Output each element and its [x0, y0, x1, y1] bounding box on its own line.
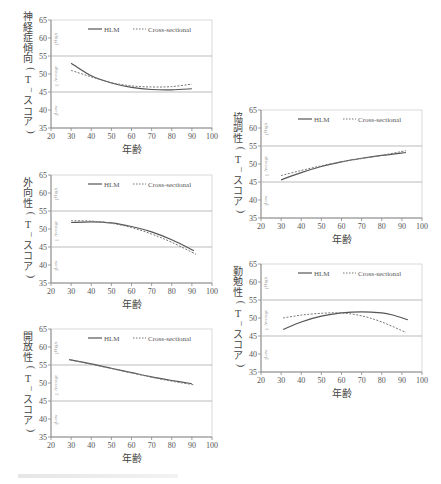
- x-tick-label: 20: [257, 376, 265, 385]
- x-axis-label: 年齢: [122, 143, 142, 155]
- x-tick-label: 30: [67, 287, 75, 296]
- x-tick-label: 90: [188, 287, 196, 296]
- y-tick-label: 50: [39, 379, 47, 388]
- series-cross-sectional: [71, 221, 196, 254]
- x-tick-label: 50: [317, 376, 325, 385]
- svg-text:): ): [235, 210, 247, 213]
- x-tick-label: 30: [67, 132, 75, 141]
- x-tick-label: 20: [47, 441, 55, 450]
- band-label-high: High: [53, 33, 58, 44]
- y-tick-label: 55: [39, 361, 47, 370]
- series-hlm: [69, 360, 192, 384]
- y-tick-label: 35: [39, 124, 47, 133]
- x-tick-label: 60: [128, 441, 136, 450]
- svg-text:(: (: [235, 301, 247, 305]
- legend-hlm: HLM: [314, 116, 330, 124]
- series-hlm: [281, 152, 406, 179]
- x-tick-label: 90: [188, 132, 196, 141]
- x-tick-label: 60: [128, 287, 136, 296]
- svg-text:−: −: [26, 386, 37, 392]
- y-tick-label: 65: [39, 16, 47, 25]
- band-label-high: High: [53, 188, 58, 199]
- band-label-low: Low: [53, 260, 58, 270]
- y-tick-label: 45: [249, 332, 257, 341]
- y-tick-label: 60: [39, 189, 47, 198]
- band-label-average: Average: [53, 220, 58, 237]
- svg-text:−: −: [26, 232, 37, 238]
- x-tick-label: 100: [206, 441, 218, 450]
- x-tick-label: 30: [277, 222, 285, 231]
- x-tick-label: 90: [188, 441, 196, 450]
- y-tick-label: 40: [249, 196, 257, 205]
- x-tick-label: 80: [378, 222, 386, 231]
- svg-text:(: (: [235, 147, 247, 151]
- svg-text:): ): [25, 275, 37, 278]
- x-tick-label: 70: [148, 441, 156, 450]
- band-label-average: Average: [263, 155, 268, 172]
- x-tick-label: 40: [87, 441, 95, 450]
- x-tick-label: 90: [398, 222, 406, 231]
- y-tick-label: 45: [249, 178, 257, 187]
- x-tick-label: 80: [168, 441, 176, 450]
- y-tick-label: 45: [39, 243, 47, 252]
- band-label-high: High: [53, 342, 58, 353]
- band-label-low: Low: [263, 195, 268, 205]
- legend-cross-sectional: Cross-sectional: [358, 270, 401, 278]
- x-tick-label: 20: [257, 222, 265, 231]
- x-tick-label: 100: [416, 376, 428, 385]
- y-tick-label: 65: [39, 325, 47, 334]
- band-label-low: Low: [263, 349, 268, 359]
- y-tick-label: 65: [39, 171, 47, 180]
- band-label-high: High: [263, 277, 268, 288]
- chart-extraversion: 354045505560652030405060708090100HighAve…: [0, 155, 230, 314]
- y-axis-label: 協調性Tスコア: [233, 111, 243, 207]
- series-cross-sectional: [283, 313, 406, 333]
- y-tick-label: 35: [39, 433, 47, 442]
- svg-text:(: (: [25, 212, 37, 216]
- x-tick-label: 80: [168, 132, 176, 141]
- y-tick-label: 60: [39, 34, 47, 43]
- y-tick-label: 55: [249, 296, 257, 305]
- y-tick-label: 45: [39, 397, 47, 406]
- legend-hlm: HLM: [104, 181, 120, 189]
- series-hlm: [71, 222, 194, 251]
- y-tick-label: 55: [39, 207, 47, 216]
- svg-text:−: −: [236, 167, 247, 173]
- band-label-high: High: [263, 123, 268, 134]
- y-tick-label: 50: [249, 314, 257, 323]
- y-tick-label: 40: [39, 261, 47, 270]
- x-tick-label: 40: [87, 287, 95, 296]
- x-tick-label: 100: [416, 222, 428, 231]
- x-tick-label: 20: [47, 132, 55, 141]
- figure-caption: [18, 474, 178, 478]
- x-tick-label: 80: [168, 287, 176, 296]
- svg-text:−: −: [26, 87, 37, 93]
- y-tick-label: 55: [39, 52, 47, 61]
- y-tick-label: 40: [39, 415, 47, 424]
- x-tick-label: 50: [107, 132, 115, 141]
- legend-cross-sectional: Cross-sectional: [358, 116, 401, 124]
- svg-text:): ): [235, 364, 247, 367]
- band-label-average: Average: [263, 309, 268, 326]
- legend-cross-sectional: Cross-sectional: [148, 26, 191, 34]
- band-label-average: Average: [53, 65, 58, 82]
- y-tick-label: 40: [39, 106, 47, 115]
- y-axis-label: 勤勉性Tスコア: [233, 265, 243, 361]
- legend-hlm: HLM: [104, 335, 120, 343]
- x-tick-label: 20: [47, 287, 55, 296]
- x-tick-label: 50: [317, 222, 325, 231]
- x-tick-label: 50: [107, 441, 115, 450]
- band-label-low: Low: [53, 105, 58, 115]
- x-tick-label: 60: [128, 132, 136, 141]
- y-axis-label: 外向性Tスコア: [23, 177, 33, 272]
- y-tick-label: 50: [39, 70, 47, 79]
- chart-conscientiousness: 354045505560652030405060708090100HighAve…: [210, 244, 440, 403]
- y-tick-label: 35: [39, 279, 47, 288]
- x-tick-label: 70: [358, 222, 366, 231]
- y-tick-label: 65: [249, 106, 257, 115]
- x-tick-label: 60: [338, 376, 346, 385]
- legend-hlm: HLM: [314, 270, 330, 278]
- series-hlm: [283, 312, 408, 330]
- legend-cross-sectional: Cross-sectional: [148, 181, 191, 189]
- y-tick-label: 60: [39, 343, 47, 352]
